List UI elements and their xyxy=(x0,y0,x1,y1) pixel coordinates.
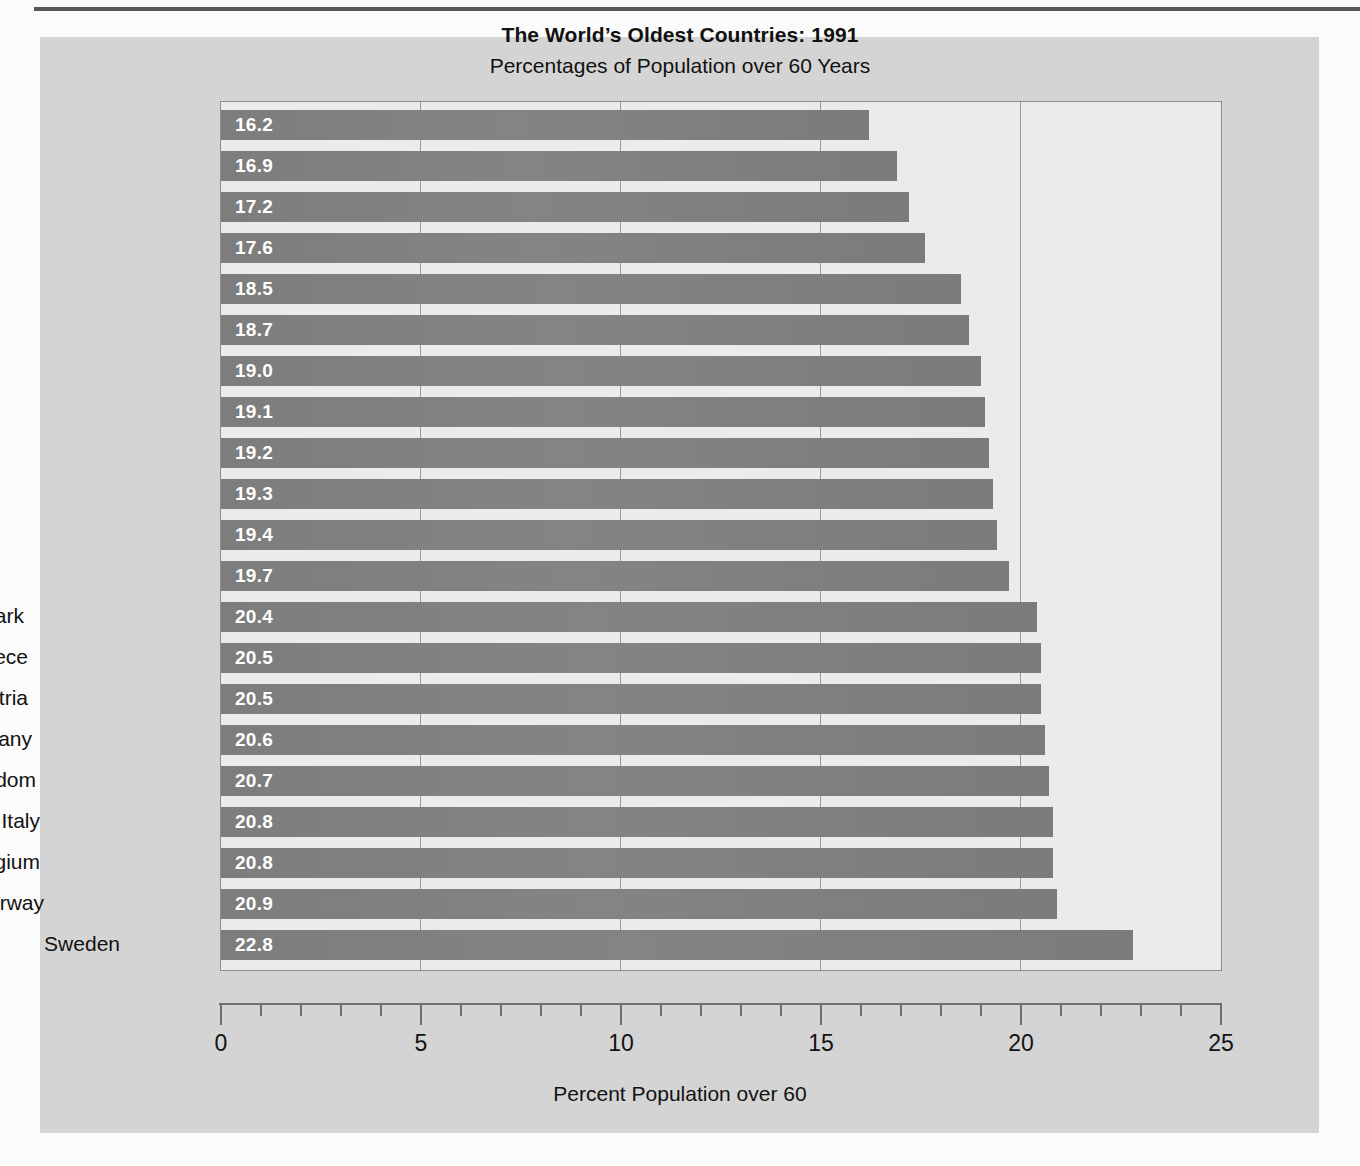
minor-tick-12 xyxy=(700,1003,702,1016)
bar xyxy=(221,684,1041,714)
category-label: Belgium xyxy=(0,850,40,874)
bar-value-label: 19.7 xyxy=(235,565,273,587)
bar xyxy=(221,561,1009,591)
major-tick-15 xyxy=(820,1003,822,1025)
x-tick-label-5: 5 xyxy=(415,1030,428,1057)
bar-row: 19.4France xyxy=(221,520,997,550)
bar-value-label: 18.7 xyxy=(235,319,273,341)
category-label: Norway xyxy=(0,891,44,915)
bar-row: 22.8Sweden xyxy=(221,930,1133,960)
bar-value-label: 20.5 xyxy=(235,647,273,669)
bar-row: 19.2Bulgaria xyxy=(221,438,989,468)
minor-tick-24 xyxy=(1180,1003,1182,1016)
bar-row: 20.5Austria xyxy=(221,684,1041,714)
bar-value-label: 20.4 xyxy=(235,606,273,628)
bar-value-label: 19.3 xyxy=(235,483,273,505)
bar-value-label: 20.6 xyxy=(235,729,273,751)
bar-row: 18.5Portugal xyxy=(221,274,961,304)
bar-row: 19.3Luxembourg xyxy=(221,479,993,509)
minor-tick-9 xyxy=(580,1003,582,1016)
bar-row: 20.7United Kingdom xyxy=(221,766,1049,796)
bar xyxy=(221,151,897,181)
bar xyxy=(221,110,869,140)
major-tick-0 xyxy=(220,1003,222,1025)
x-tick-label-25: 25 xyxy=(1208,1030,1234,1057)
bar-row: 19.1Hungary xyxy=(221,397,985,427)
minor-tick-11 xyxy=(660,1003,662,1016)
bar xyxy=(221,397,985,427)
bar xyxy=(221,479,993,509)
bar xyxy=(221,848,1053,878)
minor-tick-14 xyxy=(780,1003,782,1016)
bar xyxy=(221,233,925,263)
minor-tick-21 xyxy=(1060,1003,1062,1016)
minor-tick-23 xyxy=(1140,1003,1142,1016)
bar-value-label: 20.8 xyxy=(235,811,273,833)
bar-value-label: 17.6 xyxy=(235,237,273,259)
chart-subtitle: Percentages of Population over 60 Years xyxy=(0,51,1360,81)
bar xyxy=(221,274,961,304)
bar-value-label: 16.9 xyxy=(235,155,273,177)
bar-row: 17.2Japan xyxy=(221,192,909,222)
minor-tick-22 xyxy=(1100,1003,1102,1016)
bar-value-label: 20.5 xyxy=(235,688,273,710)
bar-value-label: 20.7 xyxy=(235,770,273,792)
category-label: Italy xyxy=(0,809,40,833)
minor-tick-1 xyxy=(260,1003,262,1016)
chart-title: The World’s Oldest Countries: 1991 xyxy=(0,22,1360,48)
bar xyxy=(221,438,989,468)
minor-tick-13 xyxy=(740,1003,742,1016)
x-tick-label-10: 10 xyxy=(608,1030,634,1057)
bar-row: 19.0Spain xyxy=(221,356,981,386)
minor-tick-7 xyxy=(500,1003,502,1016)
bar xyxy=(221,356,981,386)
minor-tick-16 xyxy=(860,1003,862,1016)
minor-tick-17 xyxy=(900,1003,902,1016)
minor-tick-4 xyxy=(380,1003,382,1016)
major-tick-20 xyxy=(1020,1003,1022,1025)
x-tick-label-15: 15 xyxy=(808,1030,834,1057)
bar-row: 20.8Belgium xyxy=(221,848,1053,878)
bar-value-label: 20.8 xyxy=(235,852,273,874)
bar-row: 20.8Italy xyxy=(221,807,1053,837)
bar xyxy=(221,192,909,222)
bar xyxy=(221,643,1041,673)
bar xyxy=(221,807,1053,837)
bar xyxy=(221,930,1133,960)
bar-row: 16.9United States xyxy=(221,151,897,181)
bar xyxy=(221,520,997,550)
bar xyxy=(221,602,1037,632)
gridline-20 xyxy=(1020,102,1021,970)
minor-tick-8 xyxy=(540,1003,542,1016)
bar-value-label: 16.2 xyxy=(235,114,273,136)
page-top-rule xyxy=(34,7,1360,11)
category-label: Denmark xyxy=(0,604,24,628)
category-label: Germany xyxy=(0,727,32,751)
minor-tick-6 xyxy=(460,1003,462,1016)
bar-row: 19.7Switzerland xyxy=(221,561,1009,591)
category-label: Austria xyxy=(0,686,28,710)
bar-value-label: 20.9 xyxy=(235,893,273,915)
bar-row: 17.6Netherlands xyxy=(221,233,925,263)
minor-tick-19 xyxy=(980,1003,982,1016)
x-tick-label-0: 0 xyxy=(215,1030,228,1057)
bar xyxy=(221,766,1049,796)
category-label: Greece xyxy=(0,645,28,669)
bar-value-label: 19.0 xyxy=(235,360,273,382)
bar-row: 16.2Canada xyxy=(221,110,869,140)
category-label: Sweden xyxy=(0,932,120,956)
minor-tick-2 xyxy=(300,1003,302,1016)
x-axis-line xyxy=(219,1003,1222,1005)
x-tick-label-20: 20 xyxy=(1008,1030,1034,1057)
minor-tick-3 xyxy=(340,1003,342,1016)
bar xyxy=(221,725,1045,755)
bar-row: 20.4Denmark xyxy=(221,602,1037,632)
bar-value-label: 19.4 xyxy=(235,524,273,546)
title-block: The World’s Oldest Countries: 1991 Perce… xyxy=(0,22,1360,81)
bar-row: 20.9Norway xyxy=(221,889,1057,919)
bar-value-label: 18.5 xyxy=(235,278,273,300)
bar-value-label: 17.2 xyxy=(235,196,273,218)
major-tick-5 xyxy=(420,1003,422,1025)
major-tick-10 xyxy=(620,1003,622,1025)
bar-value-label: 19.2 xyxy=(235,442,273,464)
